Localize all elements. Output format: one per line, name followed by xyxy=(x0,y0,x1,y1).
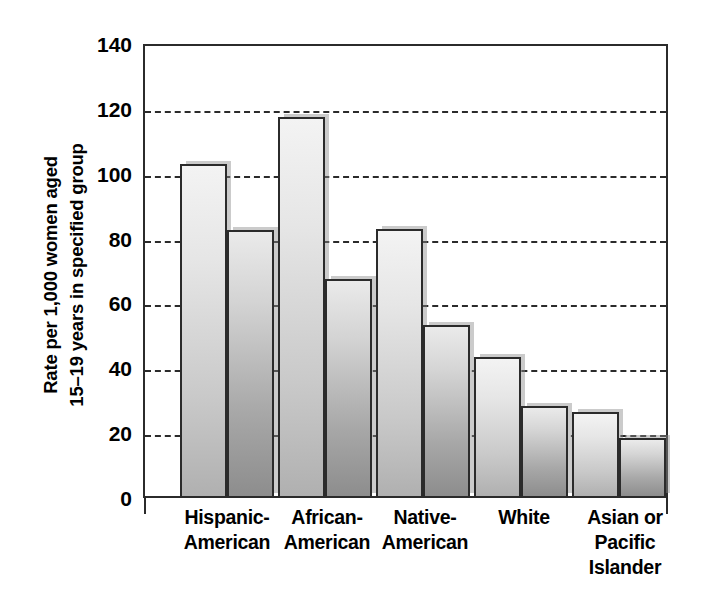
plot-area xyxy=(143,44,668,498)
x-label-asian-or-pacific-islander-line-1: Asian or xyxy=(555,505,695,530)
gridline-100 xyxy=(145,176,666,178)
y-tick-0: 0 xyxy=(78,488,132,509)
y-tick-140: 140 xyxy=(78,34,132,55)
gridline-80 xyxy=(145,241,666,243)
gridline-120 xyxy=(145,111,666,113)
x-axis-labels: Hispanic- American African- American Nat… xyxy=(143,505,668,610)
y-tick-100: 100 xyxy=(78,163,132,184)
x-label-asian-or-pacific-islander-line-3: Islander xyxy=(555,555,695,580)
x-label-asian-or-pacific-islander-line-2: Pacific xyxy=(555,530,695,555)
y-axis-title-line-1: Rate per 1,000 women aged xyxy=(38,110,64,440)
gridline-40 xyxy=(145,370,666,372)
y-tick-80: 80 xyxy=(78,228,132,249)
x-label-native-american-line-2: American xyxy=(351,530,499,555)
y-tick-20: 20 xyxy=(78,423,132,444)
y-tick-60: 60 xyxy=(78,293,132,314)
gridline-60 xyxy=(145,305,666,307)
gridline-20 xyxy=(145,435,666,437)
bar-chart: Rate per 1,000 women aged 15–19 years in… xyxy=(0,0,704,613)
x-label-asian-or-pacific-islander: Asian or Pacific Islander xyxy=(555,505,695,580)
y-axis-tick-labels: 140 120 100 80 60 40 20 0 xyxy=(70,44,132,498)
y-tick-120: 120 xyxy=(78,98,132,119)
y-tick-40: 40 xyxy=(78,358,132,379)
